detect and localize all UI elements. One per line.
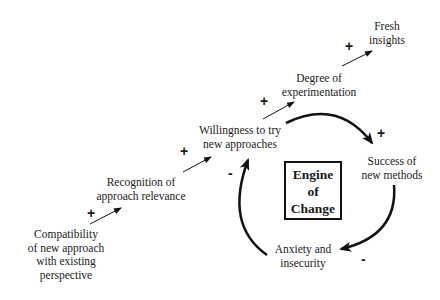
node-text: Degree of [272,72,366,86]
node-compatibility: Compatibility of new approach with exist… [12,228,120,282]
node-text: approach relevance [86,190,196,204]
node-text: insecurity [268,257,338,271]
node-text: Willingness to try [188,124,292,138]
node-text: Recognition of [86,176,196,190]
node-willingness: Willingness to try new approaches [188,124,292,151]
engine-label-line: Change [286,200,340,217]
polarity-success-anxiety: - [361,252,366,266]
polarity-recog-willing: + [180,144,188,158]
arrow-willingness-to-success [286,114,372,143]
node-fresh-insights: Fresh insights [362,20,412,47]
node-text: with existing [12,255,120,269]
engine-of-change-box: Engine of Change [284,161,342,220]
engine-label-line: Engine [286,166,340,183]
polarity-willing-success: + [377,126,385,140]
engine-label-line: of [286,183,340,200]
node-anxiety: Anxiety and insecurity [268,243,338,270]
node-text: Success of [354,155,430,169]
node-text: insights [362,34,412,48]
arrow-anxiety-to-willingness [239,160,267,255]
polarity-exper-insights: + [345,39,353,53]
node-text: perspective [12,269,120,283]
node-text: Compatibility [12,228,120,242]
polarity-anxiety-willing: - [228,166,233,180]
node-text: new approaches [188,138,292,152]
node-text: experimentation [272,86,366,100]
node-text: Fresh [362,20,412,34]
node-text: new methods [354,169,430,183]
node-experimentation: Degree of experimentation [272,72,366,99]
polarity-compat-recog: + [87,206,95,220]
node-text: Anxiety and [268,243,338,257]
node-recognition: Recognition of approach relevance [86,176,196,203]
arrow-recognition-to-willingness [183,157,211,172]
node-text: of new approach [12,242,120,256]
node-success: Success of new methods [354,155,430,182]
arrow-success-to-anxiety [341,185,394,249]
polarity-willing-exper: + [260,94,268,108]
